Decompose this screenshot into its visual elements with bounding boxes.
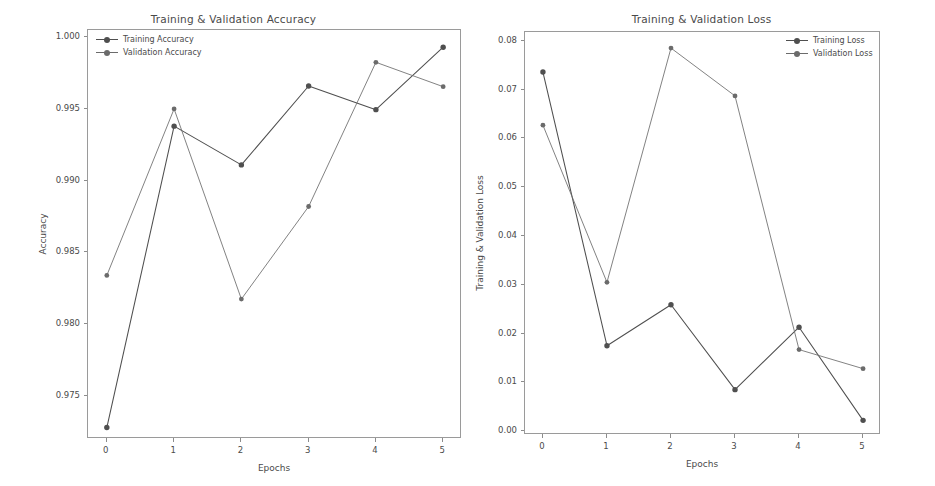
data-point-marker	[669, 46, 674, 51]
y-axis-tick-label: 0.01	[498, 376, 517, 386]
series-line	[543, 72, 863, 420]
x-axis-tick-mark	[173, 438, 174, 442]
y-axis-tick-mark	[521, 40, 525, 41]
y-axis-tick-label: 0.08	[498, 35, 517, 45]
x-axis-tick-label: 1	[170, 445, 175, 455]
legend-entry[interactable]: Validation Accuracy	[96, 46, 202, 59]
series-line	[107, 62, 443, 299]
series-line	[543, 48, 863, 369]
y-axis-tick-label: 0.00	[498, 425, 517, 435]
loss-chart-panel: Training & Validation Loss 0.080.070.060…	[468, 0, 935, 486]
x-axis-tick-mark	[798, 434, 799, 438]
x-axis-tick-label: 0	[539, 441, 544, 451]
loss-chart-title: Training & Validation Loss	[468, 13, 935, 25]
x-axis-tick-label: 1	[603, 441, 608, 451]
data-point-marker	[239, 162, 244, 167]
y-axis-tick-label: 0.07	[498, 84, 517, 94]
data-point-marker	[732, 387, 737, 392]
x-axis-tick-label: 3	[731, 441, 736, 451]
legend-entry[interactable]: Validation Loss	[786, 47, 873, 60]
x-axis-title: Epochs	[686, 459, 718, 469]
data-point-marker	[861, 366, 866, 371]
legend-entry-label: Validation Accuracy	[123, 47, 202, 58]
data-point-marker	[306, 204, 311, 209]
y-axis-tick-label: 0.995	[56, 103, 80, 113]
accuracy-legend: Training AccuracyValidation Accuracy	[96, 33, 202, 59]
x-axis-tick-label: 3	[305, 445, 310, 455]
data-point-marker	[860, 418, 865, 423]
loss-plot-lines	[525, 32, 881, 435]
y-axis-tick-mark	[521, 235, 525, 236]
x-axis-tick-mark	[106, 438, 107, 442]
x-axis-tick-mark	[606, 434, 607, 438]
figure-canvas: Training & Validation Accuracy 1.0000.99…	[0, 0, 935, 486]
legend-entry-label: Training Loss	[813, 35, 865, 46]
data-point-marker	[541, 123, 546, 128]
data-point-marker	[441, 84, 446, 89]
y-axis-tick-label: 0.03	[498, 279, 517, 289]
data-point-marker	[104, 425, 109, 430]
x-axis-tick-label: 0	[103, 445, 108, 455]
x-axis-tick-label: 5	[859, 441, 864, 451]
x-axis-tick-mark	[308, 438, 309, 442]
data-point-marker	[306, 83, 311, 88]
y-axis-tick-mark	[521, 137, 525, 138]
y-axis-tick-mark	[521, 333, 525, 334]
y-axis-tick-label: 0.05	[498, 181, 517, 191]
data-point-marker	[104, 273, 109, 278]
loss-legend: Training LossValidation Loss	[786, 34, 873, 60]
y-axis-tick-label: 0.980	[56, 318, 80, 328]
accuracy-plot-area	[87, 29, 461, 438]
x-axis-tick-label: 2	[238, 445, 243, 455]
legend-marker-icon	[786, 48, 808, 59]
x-axis-tick-mark	[670, 434, 671, 438]
data-point-marker	[172, 107, 177, 112]
y-axis-tick-mark	[521, 381, 525, 382]
data-point-marker	[374, 60, 379, 65]
legend-entry-label: Validation Loss	[813, 48, 873, 59]
data-point-marker	[604, 343, 609, 348]
accuracy-chart-title: Training & Validation Accuracy	[0, 13, 467, 25]
legend-marker-icon	[96, 47, 118, 58]
legend-marker-icon	[96, 34, 118, 45]
x-axis-title: Epochs	[258, 463, 290, 473]
y-axis-tick-mark	[521, 186, 525, 187]
x-axis-tick-label: 2	[667, 441, 672, 451]
x-axis-tick-mark	[542, 434, 543, 438]
x-axis-tick-label: 5	[439, 445, 444, 455]
data-point-marker	[796, 324, 801, 329]
data-point-marker	[171, 123, 176, 128]
y-axis-tick-mark	[84, 323, 88, 324]
loss-plot-area	[524, 31, 880, 434]
x-axis-tick-mark	[734, 434, 735, 438]
data-point-marker	[239, 297, 244, 302]
y-axis-tick-mark	[84, 395, 88, 396]
data-point-marker	[797, 347, 802, 352]
accuracy-plot-lines	[88, 30, 462, 439]
y-axis-title: Accuracy	[38, 213, 48, 254]
y-axis-tick-mark	[84, 36, 88, 37]
y-axis-tick-mark	[521, 89, 525, 90]
y-axis-tick-label: 0.04	[498, 230, 517, 240]
data-point-marker	[540, 69, 545, 74]
data-point-marker	[668, 302, 673, 307]
y-axis-tick-mark	[84, 108, 88, 109]
legend-entry[interactable]: Training Loss	[786, 34, 873, 47]
data-point-marker	[373, 107, 378, 112]
x-axis-tick-mark	[442, 438, 443, 442]
y-axis-title: Training & Validation Loss	[475, 175, 485, 290]
y-axis-tick-label: 0.985	[56, 246, 80, 256]
accuracy-chart-panel: Training & Validation Accuracy 1.0000.99…	[0, 0, 467, 486]
y-axis-tick-label: 1.000	[56, 31, 80, 41]
y-axis-tick-mark	[521, 430, 525, 431]
data-point-marker	[733, 94, 738, 99]
legend-entry[interactable]: Training Accuracy	[96, 33, 202, 46]
x-axis-tick-mark	[862, 434, 863, 438]
data-point-marker	[440, 45, 445, 50]
y-axis-tick-label: 0.06	[498, 132, 517, 142]
y-axis-tick-mark	[521, 284, 525, 285]
y-axis-tick-label: 0.990	[56, 175, 80, 185]
series-line	[107, 47, 443, 427]
legend-marker-icon	[786, 35, 808, 46]
x-axis-tick-mark	[240, 438, 241, 442]
